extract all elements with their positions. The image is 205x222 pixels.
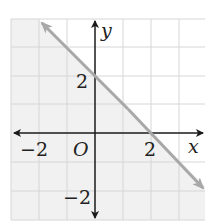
tick-label-x-neg2: −2 — [20, 138, 48, 160]
x-axis-label: x — [188, 135, 199, 157]
origin-label: O — [73, 138, 89, 160]
y-axis-label: y — [100, 19, 112, 41]
shaded-region — [11, 19, 205, 220]
tick-label-y-neg2: −2 — [63, 186, 91, 208]
tick-label-y-2: 2 — [76, 70, 88, 92]
tick-label-x-2: 2 — [144, 138, 156, 160]
coordinate-graph: y x O −2 2 2 −2 — [0, 0, 205, 222]
